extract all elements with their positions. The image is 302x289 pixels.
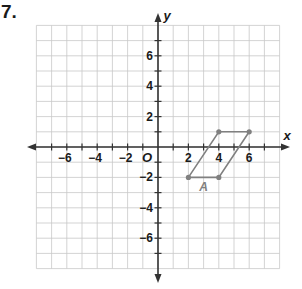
y-axis-down-arrow-icon	[155, 274, 162, 283]
vertex-point	[186, 175, 191, 180]
x-tick-label: −6	[58, 151, 72, 165]
shape-label: A	[198, 180, 208, 194]
y-tick-label: 4	[146, 79, 153, 93]
x-tick-label: −4	[88, 151, 102, 165]
y-tick-label: −2	[139, 170, 153, 184]
tick-labels: −6−4−2246642−2−4−6Oxy	[58, 8, 291, 245]
vertex-point	[247, 129, 252, 134]
vertex-point	[216, 129, 221, 134]
x-tick-label: −2	[119, 151, 133, 165]
origin-label: O	[142, 150, 152, 165]
x-tick-label: 2	[185, 151, 192, 165]
x-axis-right-arrow-icon	[281, 144, 290, 151]
x-axis-left-arrow-icon	[27, 144, 36, 151]
x-axis-label: x	[282, 128, 291, 143]
y-tick-label: −4	[139, 201, 153, 215]
y-tick-label: 2	[146, 110, 153, 124]
y-tick-label: 6	[146, 49, 153, 63]
y-tick-label: −6	[139, 231, 153, 245]
vertex-point	[216, 175, 221, 180]
x-tick-label: 6	[246, 151, 253, 165]
y-axis-up-arrow-icon	[155, 13, 162, 22]
x-tick-label: 4	[215, 151, 222, 165]
coordinate-plane: −6−4−2246642−2−4−6Oxy A	[0, 0, 302, 289]
y-axis-label: y	[162, 8, 171, 23]
